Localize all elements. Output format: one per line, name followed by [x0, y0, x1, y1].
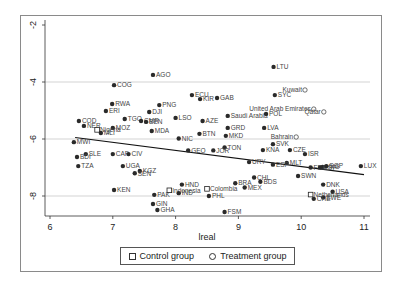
data-point — [123, 117, 127, 121]
point-label: GAB — [220, 94, 234, 101]
data-point — [157, 103, 161, 107]
data-point — [104, 109, 108, 113]
x-tick-label: 8 — [173, 222, 178, 232]
data-point — [152, 193, 156, 197]
point-label: HND — [185, 181, 199, 188]
legend: Control group Treatment group — [120, 247, 295, 265]
point-label: SEN — [138, 170, 152, 177]
data-point — [224, 134, 228, 138]
data-point — [321, 182, 325, 186]
point-label: TZA — [81, 162, 94, 169]
y-tick-label: -4 — [28, 78, 38, 86]
point-label: GRD — [231, 124, 246, 131]
point-label: PNG — [162, 101, 176, 108]
data-point — [110, 102, 114, 106]
data-point — [226, 126, 230, 130]
x-tick-label: 10 — [296, 222, 306, 232]
data-point — [126, 152, 130, 156]
point-label: DJI — [152, 108, 162, 115]
y-tick-label: -8 — [28, 192, 38, 200]
data-point — [76, 164, 80, 168]
y-tick-label: -2 — [28, 21, 38, 29]
point-label: IND — [182, 189, 194, 196]
x-tick-label: 7 — [110, 222, 115, 232]
point-label: FSM — [228, 208, 242, 215]
data-point — [207, 194, 211, 198]
data-point — [222, 210, 226, 214]
data-point — [312, 197, 316, 201]
data-point — [273, 93, 277, 97]
point-label: AGO — [156, 71, 170, 78]
circle-marker-icon — [209, 253, 216, 260]
data-point — [139, 119, 143, 123]
data-point — [247, 160, 251, 164]
control-point — [95, 128, 100, 133]
point-label: PHL — [212, 192, 225, 199]
data-point — [324, 164, 328, 168]
data-point — [177, 136, 181, 140]
data-point — [82, 124, 86, 128]
data-point — [144, 120, 148, 124]
square-marker-icon — [129, 253, 136, 260]
treatment-point — [294, 135, 298, 139]
x-axis-title: lreal — [198, 232, 215, 242]
data-point — [197, 132, 201, 136]
control-point — [205, 187, 210, 192]
data-point — [99, 131, 103, 135]
data-point — [121, 164, 125, 168]
data-point — [215, 96, 219, 100]
point-label: NIC — [182, 135, 194, 142]
point-label: BDS — [263, 178, 277, 185]
data-point — [150, 129, 154, 133]
point-label: LVA — [267, 124, 279, 131]
data-point — [211, 148, 215, 152]
control-point — [167, 188, 172, 193]
point-label: CIV — [132, 150, 144, 157]
point-label: MWI — [77, 138, 91, 145]
point-label: SGP — [329, 162, 343, 169]
point-label: Bahrain — [271, 133, 294, 140]
point-label: Colombia — [210, 185, 238, 192]
point-label: KNA — [266, 146, 280, 153]
legend-label-control: Control group — [140, 251, 195, 261]
data-point — [242, 185, 246, 189]
point-label: MDA — [155, 127, 170, 134]
data-point — [264, 112, 268, 116]
data-point — [198, 97, 202, 101]
data-point — [147, 110, 151, 114]
data-point — [308, 165, 312, 169]
point-label: BTN — [202, 130, 215, 137]
data-point — [261, 148, 265, 152]
point-label: GHA — [160, 206, 175, 213]
point-label: BEN — [149, 118, 163, 125]
point-label: ISR — [308, 150, 319, 157]
point-label: JOR — [216, 147, 229, 154]
data-point — [262, 126, 266, 130]
data-point — [190, 93, 194, 97]
data-point — [303, 152, 307, 156]
data-point — [177, 191, 181, 195]
legend-item-treatment: Treatment group — [209, 251, 286, 261]
data-point — [186, 148, 190, 152]
data-point — [271, 65, 275, 69]
point-label: KEN — [117, 186, 131, 193]
data-point — [75, 155, 79, 159]
point-label: LUX — [364, 162, 377, 169]
x-tick-label: 9 — [236, 222, 241, 232]
point-label: RWA — [115, 100, 130, 107]
x-tick-label: 6 — [47, 222, 52, 232]
point-label: ESP — [276, 161, 289, 168]
data-point — [271, 162, 275, 166]
data-point — [77, 119, 81, 123]
legend-label-treatment: Treatment group — [220, 251, 286, 261]
data-point — [151, 202, 155, 206]
data-point — [252, 175, 256, 179]
point-label: MKD — [229, 132, 244, 139]
data-point — [200, 119, 204, 123]
point-label: AZE — [206, 117, 219, 124]
point-label: LSO — [179, 114, 192, 121]
point-label: CHE — [317, 195, 331, 202]
control-point — [308, 192, 313, 197]
point-label: UGA — [126, 162, 141, 169]
data-point — [112, 188, 116, 192]
